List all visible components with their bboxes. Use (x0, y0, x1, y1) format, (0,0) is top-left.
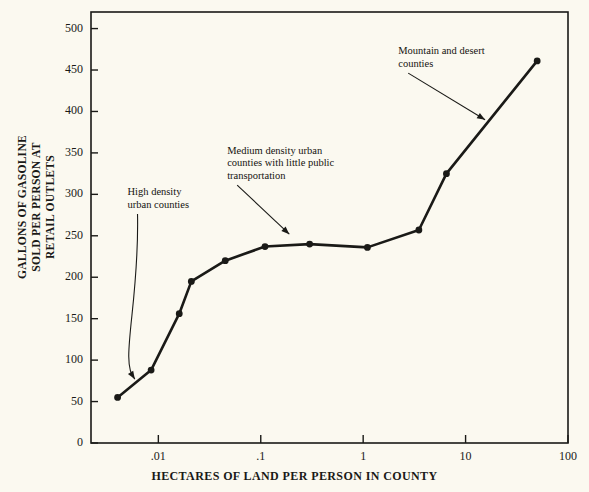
data-point-marker (188, 278, 195, 285)
y-tick-label: 500 (39, 21, 83, 36)
plot-frame (91, 12, 568, 443)
y-tick-label: 400 (39, 103, 83, 118)
data-point-marker (443, 170, 450, 177)
series-line (118, 61, 538, 398)
y-tick-label: 250 (39, 228, 83, 243)
data-point-marker (222, 257, 229, 264)
annotation-arrowhead-high-density (128, 371, 135, 379)
axes (91, 12, 568, 443)
annotation-arrowhead-mountain-desert (477, 113, 485, 120)
annotations (128, 73, 485, 379)
data-point-marker (176, 310, 183, 317)
y-tick-label: 50 (39, 394, 83, 409)
annotation-arrow-medium-density (237, 185, 289, 234)
y-tick-label: 200 (39, 269, 83, 284)
y-tick-label: 300 (39, 186, 83, 201)
x-tick-label: 10 (436, 449, 496, 464)
x-tick-label: .1 (231, 449, 291, 464)
annotation-arrow-mountain-desert (408, 73, 485, 120)
data-point-marker (415, 227, 422, 234)
data-point-marker (306, 241, 313, 248)
data-point-marker (148, 367, 155, 374)
annotation-mountain-desert: Mountain and desert counties (398, 45, 484, 70)
y-tick-label: 450 (39, 62, 83, 77)
chart-figure (0, 0, 589, 492)
data-point-marker (114, 394, 121, 401)
x-tick-label: .01 (128, 449, 188, 464)
x-tick-label: 100 (538, 449, 589, 464)
y-tick-label: 150 (39, 311, 83, 326)
annotation-arrow-high-density (129, 214, 138, 379)
annotation-medium-density: Medium density urban counties with littl… (227, 145, 334, 183)
data-point-marker (364, 244, 371, 251)
x-tick-label: 1 (333, 449, 393, 464)
data-point-marker (534, 58, 541, 65)
y-tick-label: 350 (39, 145, 83, 160)
data-series (114, 58, 540, 401)
annotation-high-density: High density urban counties (128, 186, 190, 211)
x-axis-title: HECTARES OF LAND PER PERSON IN COUNTY (0, 469, 589, 484)
data-point-marker (262, 243, 269, 250)
y-tick-label: 100 (39, 352, 83, 367)
y-tick-label: 0 (39, 435, 83, 450)
